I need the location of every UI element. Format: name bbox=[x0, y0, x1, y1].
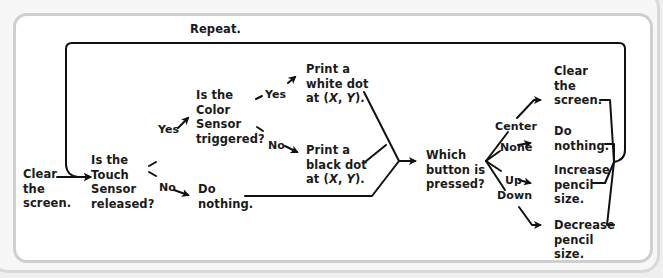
node-do-nothing-1: Do nothing. bbox=[198, 182, 253, 211]
edge-touch-yes: Yes bbox=[158, 123, 179, 138]
node-button-question: Which button is pressed? bbox=[426, 148, 485, 192]
edge-touch-no: No bbox=[159, 181, 176, 196]
node-clear-screen: Clear the screen. bbox=[554, 64, 602, 108]
loop-label: Repeat. bbox=[190, 22, 241, 37]
node-color-question: Is the Color Sensor triggered? bbox=[196, 88, 265, 146]
node-print-black: Print a black dot at (X, Y). bbox=[306, 143, 367, 187]
edge-color-yes: Yes bbox=[265, 88, 286, 103]
node-start-clear-screen: Clear the screen. bbox=[23, 167, 71, 211]
edge-btn-up: Up bbox=[505, 174, 522, 189]
node-touch-question: Is the Touch Sensor released? bbox=[91, 153, 154, 211]
edge-color-no: No bbox=[268, 139, 285, 154]
node-print-white: Print a white dot at (X, Y). bbox=[306, 62, 369, 106]
node-do-nothing-2: Do nothing. bbox=[554, 124, 609, 153]
node-increase-pencil: Increase pencil size. bbox=[554, 163, 610, 207]
edge-btn-down: Down bbox=[497, 189, 532, 204]
node-decrease-pencil: Decrease pencil size. bbox=[554, 218, 615, 262]
edge-btn-center: Center bbox=[495, 120, 537, 135]
edge-btn-none: None bbox=[500, 141, 532, 156]
